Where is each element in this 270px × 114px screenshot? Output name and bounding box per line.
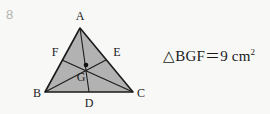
area-statement: △BGF＝9 cm2 <box>163 49 255 64</box>
centroid-label-g: G <box>77 70 86 84</box>
area-value: 9 <box>220 48 228 64</box>
triangle-abc-shape <box>45 28 133 92</box>
vertex-label-a: A <box>76 9 85 23</box>
problem-figure-page: 8 A B C D E F G △BGF＝9 cm2 <box>0 0 270 114</box>
midpoint-label-d: D <box>85 96 94 110</box>
vertex-label-b: B <box>33 86 41 100</box>
triangle-symbol: △ <box>163 48 175 64</box>
area-unit: cm <box>232 48 251 64</box>
vertex-label-c: C <box>137 86 145 100</box>
triangle-name: BGF <box>175 48 205 64</box>
geometry-figure: A B C D E F G <box>0 0 160 114</box>
area-unit-exponent: 2 <box>251 47 256 57</box>
midpoint-label-e: E <box>113 45 120 59</box>
centroid-point <box>84 63 89 68</box>
midpoint-label-f: F <box>52 45 59 59</box>
equals-sign: ＝ <box>205 48 220 64</box>
